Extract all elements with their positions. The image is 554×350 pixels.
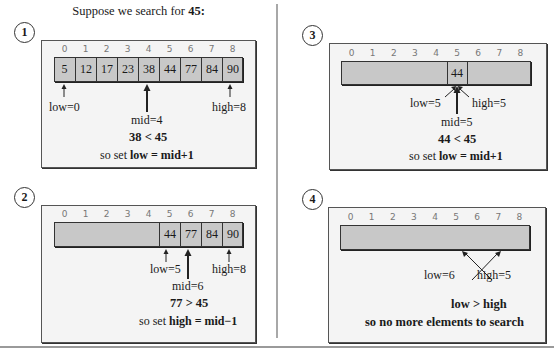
high-label: high=5 [477, 268, 511, 283]
action-note: so set low = mid+1 [409, 149, 503, 164]
array-cell: 90 [222, 58, 243, 81]
comparison: 38 < 45 [129, 130, 167, 145]
index-label: 6 [181, 44, 201, 54]
array-cell: 17 [96, 58, 117, 81]
array-cell: 84 [201, 58, 222, 81]
action-note: so set high = mid−1 [139, 314, 237, 329]
array-cell: 12 [75, 58, 96, 81]
index-label: 7 [202, 209, 222, 219]
index-label: 3 [404, 212, 424, 222]
index-label: 1 [363, 48, 383, 58]
index-label: 5 [446, 212, 466, 222]
diagram-title: Suppose we search for 45: [0, 4, 277, 19]
index-label: 1 [76, 209, 96, 219]
mid-label: mid=6 [172, 279, 203, 294]
index-label: 3 [118, 44, 138, 54]
high-label: high=8 [212, 100, 246, 115]
array-cell: 23 [117, 58, 138, 81]
index-label: 4 [139, 44, 159, 54]
step-1-badge: 1 [14, 22, 35, 43]
index-label: 6 [467, 212, 487, 222]
array-cell: 44 [159, 58, 180, 81]
low-label: low=5 [150, 262, 181, 277]
high-label: high=5 [472, 96, 506, 111]
conclusion-note: so no more elements to search [365, 315, 524, 330]
vertical-divider [276, 4, 278, 338]
index-label: 8 [510, 48, 530, 58]
index-label: 7 [488, 212, 508, 222]
index-label: 6 [468, 48, 488, 58]
mid-label: mid=5 [441, 115, 472, 130]
low-label: low=6 [424, 268, 455, 283]
index-label: 3 [405, 48, 425, 58]
index-label: 7 [202, 44, 222, 54]
array-cell: 90 [222, 223, 243, 246]
step-2-array: 44778490 [54, 222, 243, 247]
index-label: 1 [76, 44, 96, 54]
array-cell: 77 [180, 223, 201, 246]
index-label: 4 [426, 48, 446, 58]
index-label: 5 [160, 44, 180, 54]
comparison: 44 < 45 [438, 132, 476, 147]
step-2-badge: 2 [14, 187, 35, 208]
low-label: low=5 [410, 96, 441, 111]
array-cell: 84 [201, 223, 222, 246]
index-label: 0 [341, 212, 361, 222]
array-cell: 38 [138, 58, 159, 81]
index-label: 6 [181, 209, 201, 219]
index-label: 8 [509, 212, 529, 222]
index-label: 2 [384, 48, 404, 58]
comparison: low > high [451, 297, 507, 312]
array-cell: 5 [54, 58, 75, 81]
bottom-rule [0, 346, 554, 348]
mid-label: mid=4 [131, 113, 162, 128]
step-4-badge: 4 [302, 189, 323, 210]
index-label: 4 [425, 212, 445, 222]
high-label: high=8 [212, 262, 246, 277]
step-3-array: 44 [341, 61, 531, 85]
index-label: 2 [97, 209, 117, 219]
index-label: 5 [447, 48, 467, 58]
index-label: 2 [383, 212, 403, 222]
comparison: 77 > 45 [170, 296, 208, 311]
index-label: 5 [160, 209, 180, 219]
index-label: 0 [55, 209, 75, 219]
step-4-array [340, 225, 530, 250]
index-label: 8 [223, 44, 243, 54]
index-label: 2 [97, 44, 117, 54]
index-label: 7 [489, 48, 509, 58]
array-cell: 44 [159, 223, 180, 246]
index-label: 3 [118, 209, 138, 219]
array-cell: 44 [447, 62, 468, 84]
index-label: 1 [362, 212, 382, 222]
index-label: 0 [55, 44, 75, 54]
low-label: low=0 [49, 100, 80, 115]
step-3-badge: 3 [302, 25, 323, 46]
index-label: 4 [139, 209, 159, 219]
step-1-array: 51217233844778490 [54, 57, 243, 82]
index-label: 8 [223, 209, 243, 219]
array-cell: 77 [180, 58, 201, 81]
action-note: so set low = mid+1 [100, 148, 194, 163]
index-label: 0 [342, 48, 362, 58]
